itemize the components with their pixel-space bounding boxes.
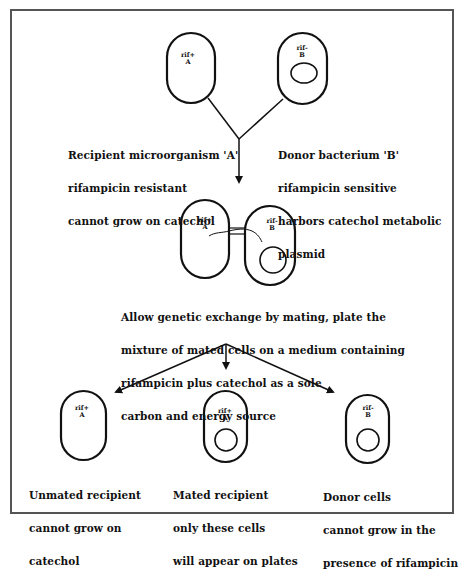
caption-line: mixture of mated cells on a medium conta…: [121, 345, 405, 356]
caption-line: catechol: [29, 556, 141, 567]
cell-label-unmated: rif+ A: [72, 405, 92, 419]
caption-line: carbon and energy source: [121, 411, 405, 422]
cell-label-recipient: rif+ A: [178, 52, 198, 66]
cell-name-label: A: [72, 412, 92, 419]
caption-line: Donor bacterium 'B': [278, 150, 442, 161]
caption-line: will appear on plates: [173, 556, 298, 567]
recipient-cell-a: [167, 33, 215, 103]
caption-line: only these cells: [173, 523, 298, 534]
caption-line: Donor cells: [323, 492, 458, 503]
caption-line: Allow genetic exchange by mating, plate …: [121, 312, 405, 323]
cell-name-label: A: [178, 59, 198, 66]
caption-line: plasmid: [278, 249, 442, 260]
caption-line: Unmated recipient: [29, 490, 141, 501]
cell-label-donor: rif- B: [292, 45, 312, 59]
caption-line: rifampicin sensitive: [278, 183, 442, 194]
caption-donor: Donor bacterium 'B' rifampicin sensitive…: [278, 128, 442, 271]
outcome-cell-unmated: [61, 391, 106, 460]
caption-line: rifampicin resistant: [68, 183, 238, 194]
caption-line: cannot grow on catechol: [68, 216, 238, 227]
caption-unmated: Unmated recipient cannot grow on catecho…: [29, 468, 141, 573]
caption-line: presence of rifampicin: [323, 558, 458, 569]
caption-line: rifampicin plus catechol as a sole: [121, 378, 405, 389]
caption-mating-procedure: Allow genetic exchange by mating, plate …: [121, 290, 405, 433]
caption-line: Mated recipient: [173, 490, 298, 501]
caption-recipient: Recipient microorganism 'A' rifampicin r…: [68, 128, 238, 238]
caption-mated: Mated recipient only these cells will ap…: [173, 468, 298, 573]
cell-name-label: B: [292, 52, 312, 59]
plasmid-icon: [291, 63, 317, 83]
caption-line: cannot grow in the: [323, 525, 458, 536]
caption-line: cannot grow on: [29, 523, 141, 534]
caption-line: Recipient microorganism 'A': [68, 150, 238, 161]
caption-line: harbors catechol metabolic: [278, 216, 442, 227]
caption-donor-outcome: Donor cells cannot grow in the presence …: [323, 470, 458, 573]
